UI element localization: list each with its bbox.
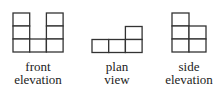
grid-cell	[189, 26, 206, 39]
side-elevation-label-line2: elevation	[154, 73, 220, 86]
grid-cell	[13, 13, 30, 26]
grid-cell	[92, 40, 109, 53]
grid-cell	[125, 40, 142, 53]
grid-cell	[189, 39, 206, 52]
grid-cell	[13, 39, 30, 52]
grid-cell	[13, 26, 30, 39]
front-elevation-label-line2: elevation	[3, 73, 73, 86]
side-elevation-grid	[172, 13, 206, 52]
grid-cell	[46, 26, 63, 39]
grid-cell	[109, 40, 126, 53]
front-elevation-grid	[13, 13, 63, 52]
plan-view-grid	[92, 27, 142, 53]
grid-cell	[46, 13, 63, 26]
plan-view-label-line2: view	[82, 73, 152, 86]
grid-cell	[172, 39, 189, 52]
grid-cell	[30, 39, 47, 52]
grid-cell	[172, 26, 189, 39]
grid-cell	[46, 39, 63, 52]
grid-cell	[125, 27, 142, 40]
grid-cell	[172, 13, 189, 26]
